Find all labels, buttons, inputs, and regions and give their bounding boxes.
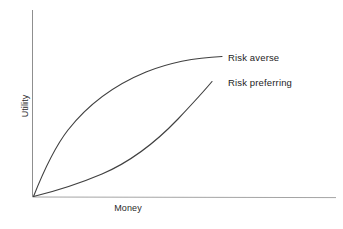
curve-label-risk-preferring: Risk preferring (228, 77, 292, 88)
plot-area (0, 0, 343, 229)
utility-curve-figure: Utility Money Risk averse Risk preferrin… (0, 0, 343, 229)
x-axis-label: Money (98, 203, 158, 213)
y-axis-label: Utility (20, 76, 30, 136)
curve-risk-preferring (34, 82, 213, 197)
x-axis (33, 197, 337, 198)
curve-label-risk-averse: Risk averse (228, 52, 279, 63)
curve-risk-averse (34, 57, 223, 197)
